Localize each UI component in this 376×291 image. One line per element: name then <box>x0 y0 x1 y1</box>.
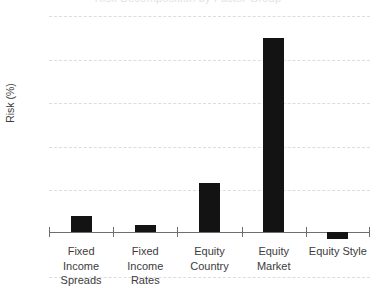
xcat-line: Equity Style <box>295 244 376 259</box>
bar-equity-country[interactable] <box>199 183 220 232</box>
xcat-line: Rates <box>102 273 188 288</box>
x-axis-baseline <box>49 232 370 233</box>
x-tick-4 <box>306 227 307 237</box>
gridline-3 <box>49 103 370 104</box>
chart-title-text: Risk Decomposition by Factor Group <box>0 0 376 4</box>
gridline-2 <box>49 147 370 148</box>
chart-title-clipped: Risk Decomposition by Factor Group <box>0 0 376 5</box>
gridline-4 <box>49 60 370 61</box>
bar-fixed-income-spreads[interactable] <box>71 216 92 232</box>
bar-equity-style[interactable] <box>327 232 348 239</box>
bar-fixed-income-rates[interactable] <box>135 225 156 232</box>
x-tick-5 <box>369 227 370 237</box>
bar-equity-market[interactable] <box>263 38 284 232</box>
plot-area: 5% 4% 3% 2% 1% 0% -1% Fixed Income Spr <box>49 16 370 277</box>
y-axis-title: Risk (%) <box>4 68 16 138</box>
gridline-5 <box>49 16 370 17</box>
xcat-label-equity-style: Equity Style <box>295 244 376 259</box>
bar-chart: Risk Decomposition by Factor Group Risk … <box>0 0 376 291</box>
x-tick-1 <box>113 227 114 237</box>
x-tick-3 <box>242 227 243 237</box>
x-tick-2 <box>177 227 178 237</box>
xcat-line: Market <box>231 259 317 274</box>
x-tick-0 <box>49 227 50 237</box>
